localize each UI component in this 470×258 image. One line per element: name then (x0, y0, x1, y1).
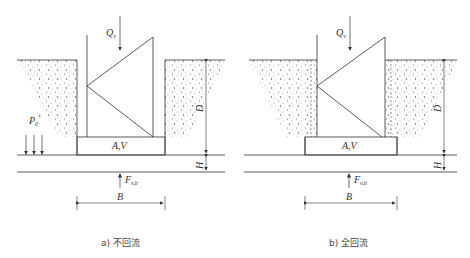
svg-text:D: D (194, 104, 205, 113)
figure-a: Qv P0' A,V Fv,b B D H (17, 16, 225, 210)
svg-text:D: D (432, 104, 443, 113)
svg-text:A,V: A,V (341, 140, 359, 151)
soil-right (165, 60, 225, 137)
caption-a: a) 不回流 (101, 236, 140, 249)
svg-text:B: B (117, 191, 123, 202)
svg-text:Qv: Qv (336, 27, 346, 39)
svg-text:P0': P0' (28, 113, 41, 127)
soil-left (17, 60, 77, 137)
svg-text:H: H (432, 161, 443, 170)
svg-text:A,V: A,V (111, 140, 129, 151)
pier-triangle (87, 37, 153, 137)
svg-text:Qv: Qv (106, 27, 116, 39)
svg-text:H: H (194, 161, 205, 170)
caption-b: b) 全回流 (329, 236, 368, 249)
figure-b: Qv A,V Fv,b B D H (244, 16, 457, 210)
svg-text:Fv,b: Fv,b (124, 174, 138, 186)
svg-text:Fv,b: Fv,b (353, 174, 367, 186)
svg-text:B: B (346, 191, 352, 202)
diagram-canvas: Qv P0' A,V Fv,b B D H (0, 0, 470, 258)
